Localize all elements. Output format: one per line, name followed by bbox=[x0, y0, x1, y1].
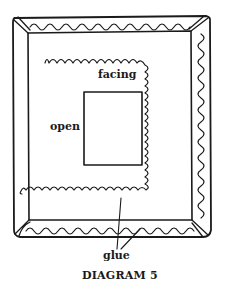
glue-pointer-inner bbox=[117, 198, 121, 249]
outer-frame bbox=[13, 16, 211, 237]
frame-glue-squiggle-right bbox=[198, 34, 204, 218]
facing-label: facing bbox=[98, 69, 136, 80]
open-label: open bbox=[50, 121, 80, 132]
glue-label: glue bbox=[103, 250, 130, 261]
corner-miter-bottom-left bbox=[15, 220, 30, 236]
corner-miter-top-right bbox=[189, 17, 208, 31]
frame-glue-squiggle-bottom bbox=[26, 228, 194, 234]
corner-miter-bottom-right bbox=[192, 220, 208, 237]
corner-miter-top-left bbox=[14, 17, 30, 33]
diagram-title: DIAGRAM 5 bbox=[82, 270, 158, 281]
center-opening bbox=[84, 92, 142, 165]
frame-glue-squiggle-top bbox=[30, 24, 190, 30]
